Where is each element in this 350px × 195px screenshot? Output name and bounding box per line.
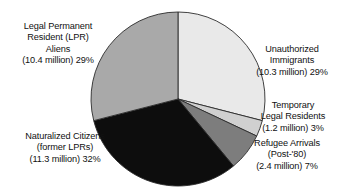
slice-label-line: Immigrants xyxy=(236,55,348,66)
slice-label-refugee-arrivals: Refugee Arrivals (Post-'80) (2.4 million… xyxy=(226,138,348,172)
slice-label-value: (11.3 million) 32% xyxy=(2,154,128,165)
slice-label-naturalized-citizens: Naturalized Citizens (former LPRs) (11.3… xyxy=(2,131,128,165)
slice-label-line: Refugee Arrivals xyxy=(226,138,348,149)
slice-label-line: (Post-'80) xyxy=(226,149,348,160)
slice-label-value: (10.4 million) 29% xyxy=(2,55,114,66)
pie-chart-figure: Legal Permanent Resident (LPR) Aliens (1… xyxy=(0,0,350,195)
slice-label-value: (2.4 million) 7% xyxy=(226,161,348,172)
slice-label-line: (former LPRs) xyxy=(2,142,128,153)
slice-label-line: Naturalized Citizens xyxy=(2,131,128,142)
slice-label-line: Unauthorized xyxy=(236,44,348,55)
slice-label-value: (1.2 million) 3% xyxy=(238,123,348,134)
slice-label-line: Resident (LPR) xyxy=(2,32,114,43)
slice-label-line: Legal Residents xyxy=(238,111,348,122)
slice-label-temporary-legal-residents: Temporary Legal Residents (1.2 million) … xyxy=(238,100,348,134)
slice-label-line: Aliens xyxy=(2,44,114,55)
slice-label-value: (10.3 million) 29% xyxy=(236,67,348,78)
slice-label-line: Legal Permanent xyxy=(2,21,114,32)
slice-label-line: Temporary xyxy=(238,100,348,111)
slice-label-legal-permanent-resident-aliens: Legal Permanent Resident (LPR) Aliens (1… xyxy=(2,21,114,67)
slice-label-unauthorized-immigrants: Unauthorized Immigrants (10.3 million) 2… xyxy=(236,44,348,78)
